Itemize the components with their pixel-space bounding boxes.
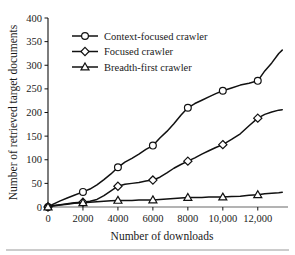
y-tick-label: 250 — [26, 83, 42, 94]
legend-item-2: Focused crawler — [72, 46, 174, 57]
chart-figure: 0501001502002503003504000200040006000800… — [0, 0, 295, 255]
x-tick-label: 8000 — [177, 213, 198, 224]
y-tick-label: 350 — [26, 36, 42, 47]
y-tick-label: 200 — [26, 107, 42, 118]
series-line — [48, 50, 282, 207]
legend-label: Breadth-first crawler — [104, 62, 192, 73]
x-tick-label: 12,000 — [243, 213, 272, 224]
x-tick-label: 4000 — [107, 213, 128, 224]
data-point-marker — [80, 188, 87, 195]
series-1 — [45, 50, 283, 210]
data-point-marker — [114, 182, 122, 190]
data-point-marker — [115, 164, 122, 171]
data-point-marker — [254, 77, 261, 84]
data-point-marker — [184, 104, 191, 111]
data-point-marker — [219, 87, 226, 94]
legend-label: Focused crawler — [104, 46, 174, 57]
x-axis-title: Number of downloads — [111, 230, 214, 242]
y-tick-label: 100 — [26, 154, 42, 165]
y-tick-label: 50 — [32, 178, 43, 189]
axes: 0501001502002503003504000200040006000800… — [26, 13, 288, 224]
x-tick-label: 0 — [45, 213, 50, 224]
x-tick-label: 6000 — [142, 213, 163, 224]
chart-canvas: 0501001502002503003504000200040006000800… — [0, 0, 295, 255]
legend-marker — [82, 33, 89, 40]
chart-legend: Context-focused crawlerFocused crawlerBr… — [72, 31, 208, 73]
y-axis-title: Number of retrieved target documents — [7, 24, 20, 200]
y-tick-label: 0 — [37, 202, 42, 213]
x-tick-label: 10,000 — [208, 213, 237, 224]
legend-marker — [81, 47, 89, 55]
legend-item-3: Breadth-first crawler — [72, 62, 192, 73]
y-tick-label: 400 — [26, 13, 42, 24]
y-tick-label: 150 — [26, 131, 42, 142]
data-point-marker — [149, 176, 157, 184]
data-series — [44, 50, 282, 211]
legend-item-1: Context-focused crawler — [72, 31, 208, 42]
x-tick-label: 2000 — [72, 213, 93, 224]
legend-label: Context-focused crawler — [104, 31, 208, 42]
data-point-marker — [184, 157, 192, 165]
data-point-marker — [149, 142, 156, 149]
data-point-marker — [219, 141, 227, 149]
y-tick-label: 300 — [26, 60, 42, 71]
